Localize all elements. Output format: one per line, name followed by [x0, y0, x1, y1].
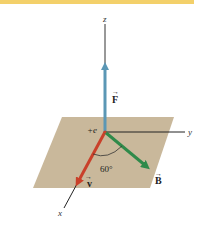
y-axis-label: y: [187, 127, 192, 137]
charge-point: [104, 131, 107, 134]
lorentz-force-diagram: z y x → F → v → B 60° +e: [0, 0, 202, 226]
velocity-vector-label: v: [87, 178, 92, 189]
magnetic-field-vector-label: B: [155, 175, 162, 186]
charge-label: +e: [87, 125, 97, 135]
z-axis-label: z: [102, 14, 107, 24]
x-axis-label: x: [57, 208, 62, 218]
angle-label: 60°: [100, 164, 113, 174]
force-vector-label: F: [112, 94, 118, 105]
